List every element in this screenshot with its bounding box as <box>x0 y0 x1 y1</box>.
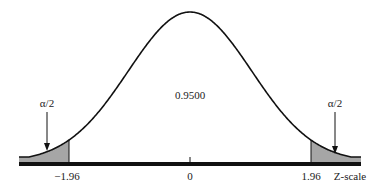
tick-label-center: 0 <box>187 170 193 182</box>
tick-label-right-critical: 1.96 <box>301 170 321 182</box>
right-tail-label: α/2 <box>328 97 342 109</box>
left-arrow-icon <box>44 112 50 151</box>
normal-distribution-diagram: α/2 α/2 0.9500 −1.96 0 1.96 Z-scale <box>0 0 392 188</box>
left-tail-shaded-region <box>19 140 69 162</box>
tick-label-left-critical: −1.96 <box>54 170 80 182</box>
normal-curve <box>19 12 361 157</box>
center-area-label: 0.9500 <box>175 89 206 101</box>
left-tail-label: α/2 <box>40 97 54 109</box>
right-arrow-icon <box>332 112 338 154</box>
bell-curve-plot: α/2 α/2 0.9500 −1.96 0 1.96 Z-scale <box>0 0 392 188</box>
axis-label: Z-scale <box>334 170 366 182</box>
